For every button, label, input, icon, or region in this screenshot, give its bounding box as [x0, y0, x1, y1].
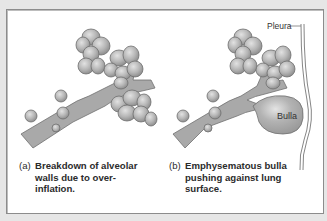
- caption-b-line-1: Emphysematous bulla: [169, 160, 299, 172]
- figure-panel: Pleura Bulla (a) Breakdown of alveolar w…: [6, 9, 324, 214]
- caption-a-line-1: Breakdown of alveolar: [19, 160, 159, 172]
- pleura-line: [300, 24, 312, 170]
- caption-b: (b) Emphysematous bulla pushing against …: [169, 160, 299, 195]
- caption-b-label: (b): [169, 160, 181, 172]
- caption-a-label: (a): [19, 160, 31, 172]
- caption-a: (a) Breakdown of alveolar walls due to o…: [19, 160, 159, 195]
- caption-b-line-3: surface.: [169, 183, 299, 195]
- pleura-label: Pleura: [267, 21, 292, 31]
- bulla-label: Bulla: [277, 111, 297, 121]
- caption-a-line-3: inflation.: [19, 183, 159, 195]
- caption-a-line-2: walls due to over-: [19, 172, 159, 184]
- caption-b-line-2: pushing against lung: [169, 172, 299, 184]
